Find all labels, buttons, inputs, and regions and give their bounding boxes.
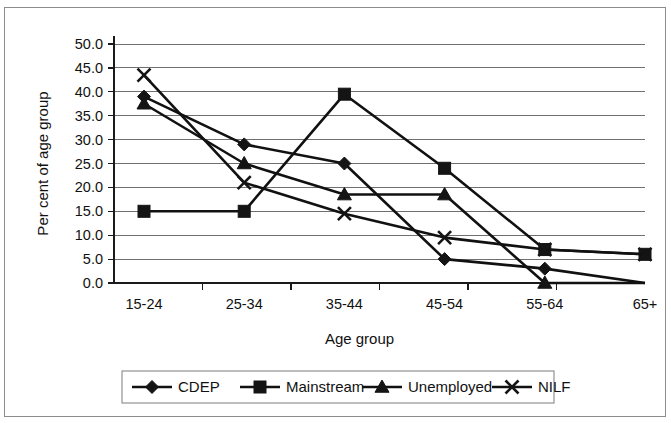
series-line-mainstream (144, 94, 645, 254)
y-axis-tick-label: 20.0 (75, 179, 103, 195)
x-axis-category-label: 45-54 (426, 296, 463, 312)
y-axis-tick-label: 40.0 (75, 84, 103, 100)
marker-triangle (237, 157, 251, 169)
x-axis-title: Age group (325, 330, 394, 347)
line-chart: 0.05.010.015.020.025.030.035.040.045.050… (0, 0, 671, 423)
series-cdep (138, 90, 646, 283)
legend: CDEPMainstreamUnemployedNILF (122, 371, 571, 403)
y-axis-tick-label: 15.0 (75, 203, 103, 219)
marker-square (138, 205, 150, 217)
y-axis-tick-label: 45.0 (75, 60, 103, 76)
y-axis-title: Per cent of age group (34, 91, 51, 235)
x-axis-category-label: 15-24 (125, 296, 162, 312)
series-mainstream (138, 88, 651, 260)
y-axis-tick-label: 50.0 (75, 36, 103, 52)
series-nilf (138, 69, 652, 261)
x-axis-category-label: 65+ (633, 296, 658, 312)
series-line-nilf (144, 75, 645, 254)
x-axis-category-label: 55-64 (526, 296, 563, 312)
gridlines-group: 0.05.010.015.020.025.030.035.040.045.050… (75, 36, 645, 291)
legend-item-unemployed[interactable]: Unemployed (362, 378, 492, 395)
y-axis-tick-label: 5.0 (83, 251, 103, 267)
legend-item-mainstream[interactable]: Mainstream (240, 378, 364, 395)
y-axis-tick-label: 35.0 (75, 108, 103, 124)
legend-label: Mainstream (286, 378, 364, 395)
series-line-cdep (144, 97, 645, 283)
marker-square (338, 88, 350, 100)
legend-marker-square (254, 381, 266, 393)
x-axis-category-label: 35-44 (326, 296, 363, 312)
y-axis-tick-label: 0.0 (83, 275, 103, 291)
legend-label: NILF (538, 378, 571, 395)
marker-square (439, 162, 451, 174)
chart-figure: 0.05.010.015.020.025.030.035.040.045.050… (0, 0, 671, 423)
y-axis-tick-label: 10.0 (75, 227, 103, 243)
marker-square (238, 205, 250, 217)
legend-label: CDEP (178, 378, 220, 395)
x-axis-category-label: 25-34 (226, 296, 263, 312)
y-axis-tick-label: 30.0 (75, 132, 103, 148)
legend-label: Unemployed (408, 378, 492, 395)
y-axis-tick-label: 25.0 (75, 156, 103, 172)
marker-diamond (538, 262, 551, 275)
